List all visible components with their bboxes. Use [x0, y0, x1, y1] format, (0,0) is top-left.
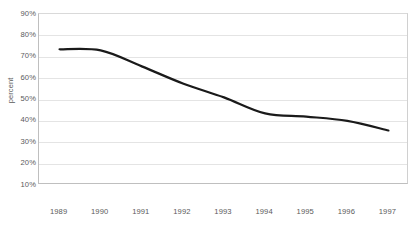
y-axis-tick-labels: 90%80%70%60%50%40%30%20%10% [0, 0, 36, 231]
y-tick-label: 30% [2, 137, 36, 146]
x-axis-tick-labels: 198919901991199219931994199519961997 [38, 206, 408, 220]
x-tick-label: 1994 [244, 206, 285, 220]
x-tick-label: 1990 [79, 206, 120, 220]
x-tick-label: 1995 [285, 206, 326, 220]
x-tick-label: 1992 [161, 206, 202, 220]
series-layer [39, 14, 407, 183]
y-tick-label: 40% [2, 115, 36, 124]
y-tick-label: 80% [2, 30, 36, 39]
series-line-percent [60, 49, 389, 131]
series-svg [39, 14, 409, 185]
y-tick-label: 60% [2, 73, 36, 82]
y-tick-label: 20% [2, 158, 36, 167]
x-tick-label: 1996 [326, 206, 367, 220]
plot-area [38, 13, 408, 184]
y-tick-label: 90% [2, 9, 36, 18]
x-tick-label: 1997 [367, 206, 408, 220]
line-chart: percent 90%80%70%60%50%40%30%20%10% 1989… [0, 0, 420, 231]
x-tick-label: 1991 [120, 206, 161, 220]
x-tick-label: 1993 [202, 206, 243, 220]
chart-title-cropped [0, 0, 420, 6]
y-tick-label: 50% [2, 94, 36, 103]
x-tick-label: 1989 [38, 206, 79, 220]
y-tick-label: 10% [2, 180, 36, 189]
y-tick-label: 70% [2, 51, 36, 60]
